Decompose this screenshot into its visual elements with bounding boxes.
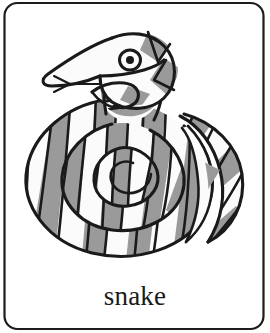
snake-illustration: .ink { fill: none; stroke: #1a1a1a; stro… (8, 14, 262, 264)
snake-head (43, 32, 182, 108)
card-label: snake (0, 281, 270, 311)
snake-eye (120, 50, 141, 70)
flashcard: .ink { fill: none; stroke: #1a1a1a; stro… (0, 0, 270, 333)
